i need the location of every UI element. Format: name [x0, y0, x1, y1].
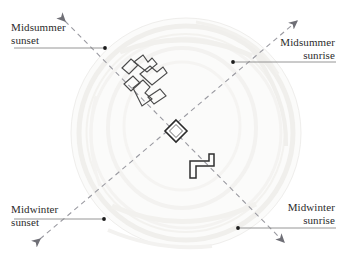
leader-dot-midsummer-sunset [103, 46, 107, 50]
diagram-canvas: Midsummer sunset Midsummer sunrise Midwi… [0, 0, 344, 265]
leader-dot-midwinter-sunrise [236, 226, 240, 230]
alignment-diagram [0, 0, 344, 265]
leader-dot-midsummer-sunrise [231, 60, 235, 64]
leader-dot-midwinter-sunset [102, 217, 106, 221]
